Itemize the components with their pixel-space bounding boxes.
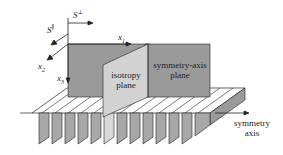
anisotropy-diagram: S⊥ S∥ x1 x2 x3 isotropy plane symmetry-a… <box>0 0 283 155</box>
symmetry-axis-plane-label: symmetry-axis plane <box>150 60 210 80</box>
label-s-perp: S⊥ <box>73 9 83 20</box>
label-x1: x1 <box>118 33 125 44</box>
symmetry-axis-label: symmetry axis <box>230 118 274 138</box>
fins <box>39 113 210 144</box>
label-s-par: S∥ <box>47 24 54 35</box>
isotropy-plane-label: isotropy plane <box>104 70 148 90</box>
label-x2: x2 <box>38 62 45 73</box>
label-x3: x3 <box>57 74 64 85</box>
